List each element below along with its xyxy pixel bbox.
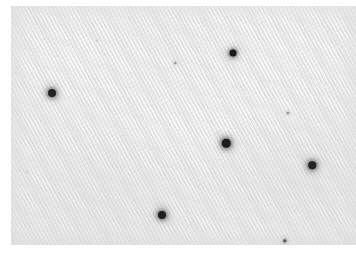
speck-lower-left: [26, 171, 27, 172]
speck-mid-right: [287, 112, 289, 114]
fabric-base-tone: [11, 6, 356, 245]
fabric-tonal-variation: [11, 6, 356, 245]
film-grain-overlay: [11, 6, 356, 245]
particle-left: [48, 89, 56, 97]
weave-secondary-texture: [11, 6, 356, 245]
fabric-photograph: [11, 6, 356, 245]
print-edge-vignette: [11, 6, 356, 245]
weave-diagonal-texture: [11, 6, 356, 245]
weave-warp-threads: [11, 6, 356, 245]
speck-upper-left: [96, 40, 97, 41]
particle-right: [308, 161, 316, 169]
particle-bottom: [158, 211, 166, 219]
speck-upper-mid: [174, 62, 176, 64]
figure-root: [0, 0, 356, 261]
particle-center: [222, 139, 231, 148]
particle-upper-right: [230, 50, 237, 57]
weave-thread-bands: [11, 6, 356, 245]
speck-bottom-right: [283, 239, 286, 242]
